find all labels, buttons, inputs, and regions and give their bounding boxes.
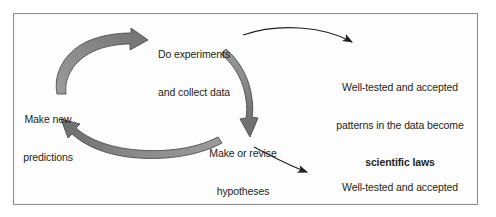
arrow-hypotheses-to-predictions <box>61 119 222 158</box>
node-label-experiments: Do experiments and collect data <box>148 23 240 123</box>
arrow-predictions-to-experiments <box>56 28 148 94</box>
outcome-laws-line1: Well-tested and accepted <box>322 81 478 94</box>
outcome-theories-line1: Well-tested and accepted <box>322 181 478 194</box>
node-label-hypotheses-line1: Make or revise <box>202 147 284 160</box>
node-label-predictions-line1: Make new <box>14 113 82 126</box>
arrow-experiments-to-laws <box>243 28 352 42</box>
node-label-predictions: Make new predictions <box>14 88 82 188</box>
outcome-label-scientific-theories: Well-tested and accepted hypotheses beco… <box>322 156 478 217</box>
node-label-predictions-line2: predictions <box>14 151 82 164</box>
node-label-experiments-line2: and collect data <box>148 86 240 99</box>
node-label-experiments-line1: Do experiments <box>148 48 240 61</box>
outcome-laws-line2: patterns in the data become <box>322 119 478 132</box>
node-label-hypotheses: Make or revise hypotheses <box>202 122 284 217</box>
diagram-canvas: Do experiments and collect data Make new… <box>0 0 496 217</box>
node-label-hypotheses-line2: hypotheses <box>202 185 284 198</box>
